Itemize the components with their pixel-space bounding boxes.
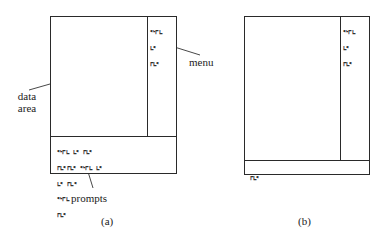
panel-a-caption: (a) (101, 215, 113, 227)
panel-b-data-area (245, 17, 339, 159)
prompt-line: ᒥᒪᑦᒥᒪᑦ ᑦᒻᒥᒪ ᒪᑦ (57, 165, 102, 170)
panel-a-prompts: ᑦᒻᒥᒪ ᒪᑦ ᒥᒪᑦ ᒥᒪᑦᒥᒪᑦ ᑦᒻᒥᒪ ᒪᑦ ᒪᑦ ᒥᒪᑦ ᑦᒻᒥᒪ ᒥ… (57, 139, 102, 227)
menu-item[interactable]: ᒪᑦ (150, 45, 165, 50)
data-area-label: data area (13, 90, 41, 114)
panel-b-prompt-divider (244, 160, 370, 161)
menu-label: menu (189, 56, 213, 68)
menu-item[interactable]: ᑦᒻᒥᒪ (150, 29, 165, 34)
panel-b-caption: (b) (298, 215, 311, 227)
panel-b-prompts: ᒥᒪᑦ (250, 165, 265, 191)
panel-b-menu: ᑦᒻᒥᒪ ᒪᑦ ᒥᒪᑦ (343, 19, 358, 76)
prompt-line: ᒥᒪᑦ (250, 175, 265, 180)
prompts-label: prompts (71, 192, 107, 204)
panel-a-prompt-divider (50, 136, 177, 137)
prompt-line: ᑦᒻᒥᒪ ᒪᑦ ᒥᒪᑦ (57, 149, 102, 154)
menu-item[interactable]: ᒥᒪᑦ (343, 61, 358, 66)
panel-b-menu-divider (340, 16, 341, 161)
panel-a-menu: ᑦᒻᒥᒪ ᒪᑦ ᒥᒪᑦ (150, 19, 165, 76)
prompt-line: ᒪᑦ ᒥᒪᑦ (57, 181, 102, 186)
panel-a-menu-divider (147, 16, 148, 137)
prompt-line: ᒥᒪᑦ (57, 212, 102, 217)
menu-item[interactable]: ᒪᑦ (343, 45, 358, 50)
menu-item[interactable]: ᑦᒻᒥᒪ (343, 29, 358, 34)
panel-a-data-area (51, 17, 146, 135)
menu-item[interactable]: ᒥᒪᑦ (150, 61, 165, 66)
